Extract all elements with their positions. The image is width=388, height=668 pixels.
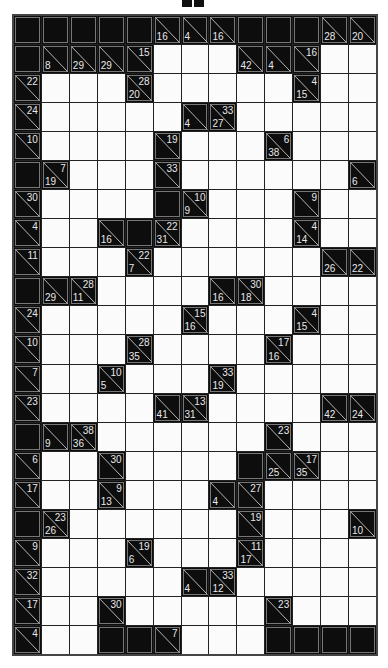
entry-cell[interactable] [42, 103, 69, 131]
entry-cell[interactable] [321, 597, 348, 625]
entry-cell[interactable] [209, 423, 236, 451]
entry-cell[interactable] [126, 423, 153, 451]
entry-cell[interactable] [321, 423, 348, 451]
entry-cell[interactable] [293, 423, 320, 451]
entry-cell[interactable] [154, 248, 181, 276]
entry-cell[interactable] [42, 452, 69, 480]
entry-cell[interactable] [70, 626, 97, 654]
entry-cell[interactable] [70, 510, 97, 538]
entry-cell[interactable] [237, 161, 264, 189]
entry-cell[interactable] [293, 335, 320, 363]
entry-cell[interactable] [237, 103, 264, 131]
entry-cell[interactable] [237, 219, 264, 247]
entry-cell[interactable] [182, 248, 209, 276]
entry-cell[interactable] [42, 190, 69, 218]
entry-cell[interactable] [237, 394, 264, 422]
entry-cell[interactable] [154, 277, 181, 305]
entry-cell[interactable] [293, 597, 320, 625]
entry-cell[interactable] [182, 45, 209, 73]
entry-cell[interactable] [154, 103, 181, 131]
entry-cell[interactable] [182, 161, 209, 189]
entry-cell[interactable] [209, 45, 236, 73]
entry-cell[interactable] [126, 190, 153, 218]
entry-cell[interactable] [182, 481, 209, 509]
entry-cell[interactable] [209, 510, 236, 538]
entry-cell[interactable] [293, 481, 320, 509]
entry-cell[interactable] [349, 539, 376, 567]
entry-cell[interactable] [237, 132, 264, 160]
entry-cell[interactable] [126, 277, 153, 305]
entry-cell[interactable] [209, 452, 236, 480]
entry-cell[interactable] [70, 190, 97, 218]
entry-cell[interactable] [126, 452, 153, 480]
entry-cell[interactable] [70, 539, 97, 567]
entry-cell[interactable] [182, 335, 209, 363]
entry-cell[interactable] [42, 132, 69, 160]
entry-cell[interactable] [182, 423, 209, 451]
entry-cell[interactable] [126, 161, 153, 189]
entry-cell[interactable] [321, 45, 348, 73]
entry-cell[interactable] [98, 132, 125, 160]
entry-cell[interactable] [265, 394, 292, 422]
entry-cell[interactable] [126, 103, 153, 131]
entry-cell[interactable] [349, 74, 376, 102]
entry-cell[interactable] [182, 452, 209, 480]
entry-cell[interactable] [237, 423, 264, 451]
entry-cell[interactable] [209, 306, 236, 334]
entry-cell[interactable] [209, 219, 236, 247]
entry-cell[interactable] [70, 452, 97, 480]
entry-cell[interactable] [349, 452, 376, 480]
entry-cell[interactable] [154, 335, 181, 363]
entry-cell[interactable] [321, 132, 348, 160]
entry-cell[interactable] [321, 306, 348, 334]
entry-cell[interactable] [98, 161, 125, 189]
entry-cell[interactable] [349, 568, 376, 596]
entry-cell[interactable] [349, 45, 376, 73]
entry-cell[interactable] [154, 568, 181, 596]
entry-cell[interactable] [265, 161, 292, 189]
entry-cell[interactable] [154, 510, 181, 538]
entry-cell[interactable] [70, 219, 97, 247]
entry-cell[interactable] [98, 190, 125, 218]
entry-cell[interactable] [42, 481, 69, 509]
entry-cell[interactable] [265, 510, 292, 538]
entry-cell[interactable] [154, 423, 181, 451]
entry-cell[interactable] [126, 597, 153, 625]
entry-cell[interactable] [209, 626, 236, 654]
entry-cell[interactable] [349, 597, 376, 625]
entry-cell[interactable] [182, 539, 209, 567]
entry-cell[interactable] [265, 568, 292, 596]
entry-cell[interactable] [349, 335, 376, 363]
entry-cell[interactable] [293, 568, 320, 596]
entry-cell[interactable] [182, 597, 209, 625]
entry-cell[interactable] [42, 539, 69, 567]
entry-cell[interactable] [321, 365, 348, 393]
entry-cell[interactable] [237, 335, 264, 363]
entry-cell[interactable] [42, 74, 69, 102]
entry-cell[interactable] [182, 365, 209, 393]
entry-cell[interactable] [98, 510, 125, 538]
entry-cell[interactable] [265, 277, 292, 305]
entry-cell[interactable] [154, 74, 181, 102]
entry-cell[interactable] [321, 568, 348, 596]
entry-cell[interactable] [237, 190, 264, 218]
entry-cell[interactable] [154, 481, 181, 509]
entry-cell[interactable] [293, 394, 320, 422]
entry-cell[interactable] [98, 103, 125, 131]
entry-cell[interactable] [42, 394, 69, 422]
entry-cell[interactable] [349, 103, 376, 131]
entry-cell[interactable] [126, 510, 153, 538]
entry-cell[interactable] [265, 190, 292, 218]
entry-cell[interactable] [209, 248, 236, 276]
entry-cell[interactable] [154, 306, 181, 334]
entry-cell[interactable] [349, 277, 376, 305]
entry-cell[interactable] [237, 597, 264, 625]
entry-cell[interactable] [209, 161, 236, 189]
entry-cell[interactable] [293, 539, 320, 567]
entry-cell[interactable] [265, 365, 292, 393]
entry-cell[interactable] [293, 365, 320, 393]
entry-cell[interactable] [293, 132, 320, 160]
entry-cell[interactable] [265, 74, 292, 102]
entry-cell[interactable] [237, 306, 264, 334]
entry-cell[interactable] [293, 161, 320, 189]
